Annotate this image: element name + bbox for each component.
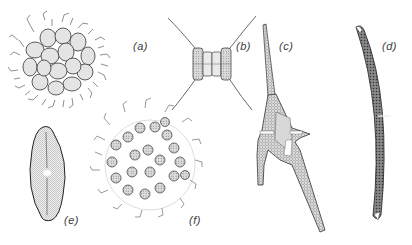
organism-e-pennate-diatom	[30, 127, 65, 221]
organism-b-diatom	[168, 16, 256, 110]
plankton-figure: (a) (b) (c) (d) (e) (f)	[0, 0, 412, 245]
organism-a-colony	[8, 11, 110, 108]
organism-d-desmid	[356, 26, 391, 220]
label-f: (f)	[189, 214, 201, 226]
organism-f-colony	[90, 98, 202, 217]
organism-drawings	[0, 0, 412, 245]
label-e: (e)	[64, 214, 79, 226]
label-c: (c)	[279, 40, 293, 52]
organism-c-dinoflagellate	[257, 24, 325, 232]
label-a: (a)	[133, 40, 148, 52]
label-b: (b)	[236, 40, 251, 52]
label-d: (d)	[382, 40, 397, 52]
